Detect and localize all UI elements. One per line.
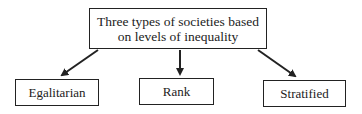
arrow-to-egalitarian — [62, 50, 98, 75]
node-label: Egalitarian — [28, 85, 85, 101]
root-label-line1: Three types of societies based — [97, 14, 259, 29]
node-stratified: Stratified — [263, 80, 346, 107]
node-label: Rank — [163, 84, 190, 100]
node-label: Stratified — [280, 86, 328, 102]
node-rank: Rank — [139, 78, 214, 105]
node-egalitarian: Egalitarian — [15, 79, 99, 106]
root-label-line2: on levels of inequality — [97, 29, 259, 44]
arrow-to-stratified — [258, 50, 295, 76]
root-node: Three types of societies based on levels… — [89, 8, 267, 49]
